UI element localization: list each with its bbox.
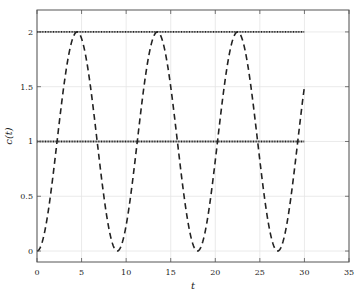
x-tick-labels: 05101520253035 (34, 268, 354, 277)
x-tick-label: 10 (121, 268, 131, 277)
x-tick-label: 25 (255, 268, 265, 277)
x-tick-label: 5 (79, 268, 84, 277)
x-tick-label: 20 (210, 268, 220, 277)
chart: 05101520253035 00.511.52 t c(t) (0, 0, 362, 297)
y-tick-label: 1 (28, 137, 33, 146)
x-tick-label: 15 (166, 268, 176, 277)
x-axis-label: t (191, 280, 196, 291)
y-tick-label: 1.5 (20, 83, 33, 92)
x-tick-label: 0 (34, 268, 39, 277)
y-tick-label: 0 (28, 247, 33, 256)
x-tick-label: 30 (299, 268, 309, 277)
y-tick-label: 2 (28, 28, 33, 37)
x-tick-label: 35 (344, 268, 354, 277)
y-tick-labels: 00.511.52 (20, 28, 33, 256)
y-axis-label: c(t) (3, 127, 14, 145)
y-tick-label: 0.5 (20, 192, 33, 201)
